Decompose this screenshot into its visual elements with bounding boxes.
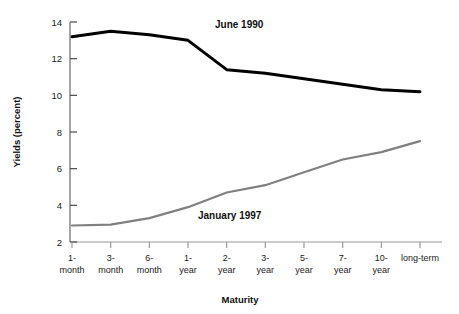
- y-axis-tick-label: 2: [57, 237, 62, 248]
- y-axis-tick-label: 4: [57, 200, 62, 211]
- series-label-2: January 1997: [198, 210, 262, 221]
- yield-curve-chart: 2468101214 1-month3-month6-month1-year2-…: [0, 0, 459, 314]
- x-axis-title: Maturity: [222, 294, 260, 305]
- chart-canvas: 2468101214 1-month3-month6-month1-year2-…: [0, 0, 459, 314]
- series-label-1: June 1990: [215, 19, 264, 30]
- y-axis-tick-label: 10: [51, 90, 62, 101]
- y-axis-title: Yields (percent): [11, 97, 22, 168]
- y-axis-tick-label: 14: [51, 17, 62, 28]
- y-axis-tick-label: 6: [57, 163, 62, 174]
- y-axis-tick-label: 12: [51, 53, 62, 64]
- x-axis-tick-label: long-term: [401, 253, 439, 263]
- y-axis-tick-label: 8: [57, 127, 62, 138]
